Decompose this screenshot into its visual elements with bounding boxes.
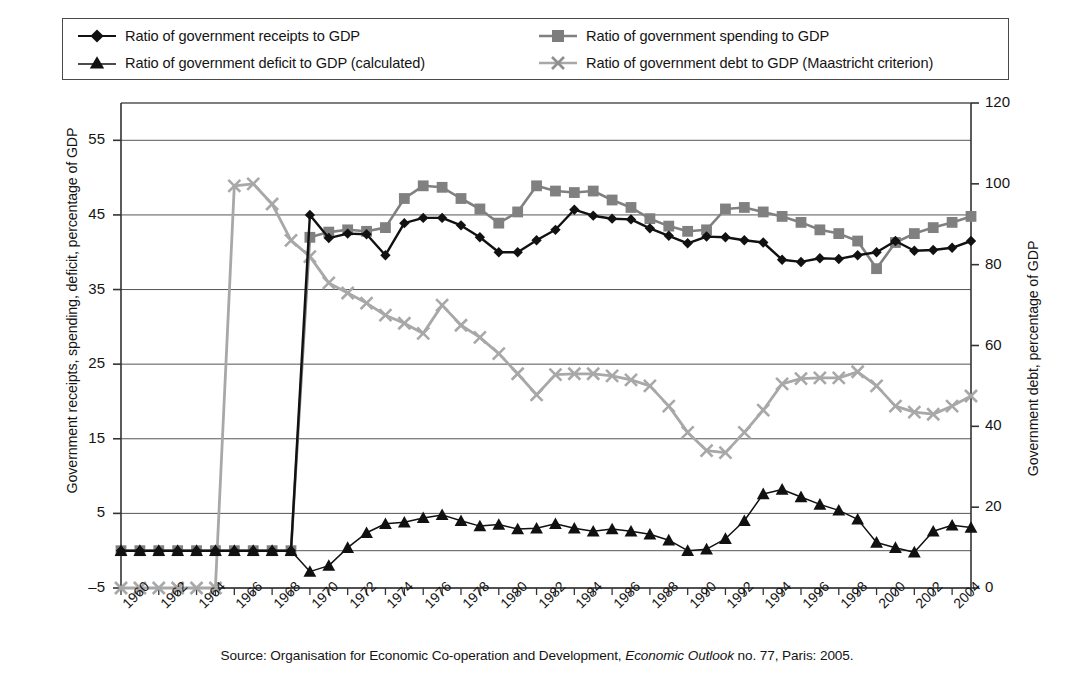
chart-page: Ratio of government receipts to GDP Rati… (0, 0, 1074, 684)
y-tick-label-right: 120 (985, 93, 1025, 110)
source-italic: Economic Outlook (625, 648, 734, 663)
y-tick-label-right: 80 (985, 255, 1025, 272)
y-tick-label-left: 35 (65, 280, 105, 297)
y-tick-label-left: 25 (65, 354, 105, 371)
source-prefix: Source: Organisation for Economic Co-ope… (221, 648, 626, 663)
y-tick-label-left: 45 (65, 205, 105, 222)
y-tick-label-right: 100 (985, 174, 1025, 191)
y-tick-label-right: 40 (985, 416, 1025, 433)
chart-canvas: Government receipts, spending, deficit, … (0, 0, 1074, 684)
y-tick-label-right: 60 (985, 336, 1025, 353)
source-suffix: no. 77, Paris: 2005. (734, 648, 854, 663)
y-tick-label-left: 5 (65, 503, 105, 520)
y-tick-label-left: 15 (65, 429, 105, 446)
y-tick-label-right: 0 (985, 578, 1025, 595)
y-tick-label-left: 55 (65, 130, 105, 147)
y-axis-title-right: Government debt, percentage of GDP (1023, 169, 1044, 549)
chart-plot (0, 0, 1074, 684)
y-tick-label-left: –5 (65, 578, 105, 595)
source-note: Source: Organisation for Economic Co-ope… (0, 648, 1074, 663)
y-tick-label-right: 20 (985, 497, 1025, 514)
